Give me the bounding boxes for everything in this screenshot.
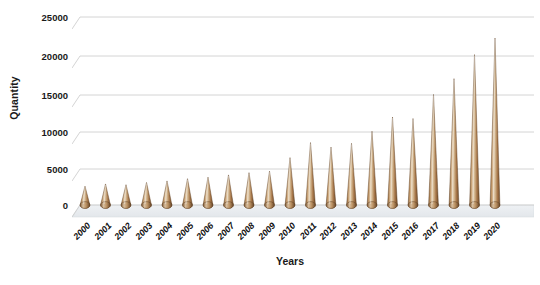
cone-base-ellipse	[306, 202, 316, 209]
y-axis-tick-labels: 25000 20000 15000 10000 5000 0	[22, 0, 68, 285]
cone-bar	[470, 55, 480, 209]
cone-bar	[224, 175, 234, 208]
y-tick-label: 10000	[22, 127, 68, 138]
chart-container: Quantity 25000 20000 15000 10000 5000 0	[0, 0, 540, 285]
cone-bar	[183, 179, 193, 209]
cone-base-ellipse	[265, 202, 275, 209]
x-tick-label: 2002	[104, 220, 134, 250]
gridlines	[72, 17, 534, 217]
x-axis-title: Years	[0, 255, 540, 267]
y-tick-label: 0	[22, 200, 68, 211]
cone-bar	[162, 181, 172, 208]
cone-bar	[244, 173, 254, 209]
x-tick-label: 2008	[227, 220, 257, 250]
x-tick-label: 2012	[309, 220, 339, 250]
cone-series	[80, 38, 500, 208]
cone-bar	[429, 94, 439, 208]
cone-base-ellipse	[224, 202, 234, 209]
cone-base-ellipse	[429, 202, 439, 209]
cone-bar	[285, 158, 295, 209]
cone-base-ellipse	[101, 202, 111, 209]
cone-base-ellipse	[80, 202, 90, 209]
y-tick-label: 5000	[22, 164, 68, 175]
cone-base-ellipse	[408, 202, 418, 209]
cone-base-ellipse	[367, 202, 377, 209]
cone-base-ellipse	[203, 202, 213, 209]
x-tick-label: 2017	[411, 220, 441, 250]
cone-bar	[142, 182, 152, 208]
plot-floor	[72, 205, 534, 217]
cone-base-ellipse	[285, 202, 295, 209]
plot-area	[72, 8, 534, 218]
x-tick-label: 2011	[288, 220, 318, 250]
x-tick-label: 2016	[391, 220, 421, 250]
x-tick-label: 2018	[432, 220, 462, 250]
x-tick-label: 2009	[247, 220, 277, 250]
cone-bar	[367, 131, 377, 208]
cone-bar	[203, 177, 213, 208]
x-tick-label: 2019	[452, 220, 482, 250]
cone-bar	[306, 143, 316, 209]
y-axis-title: Quantity	[8, 58, 20, 138]
cone-base-ellipse	[388, 202, 398, 209]
x-tick-label: 2004	[145, 220, 175, 250]
cone-bar	[388, 117, 398, 208]
y-tick-label: 25000	[22, 12, 68, 23]
x-tick-label: 2014	[350, 220, 380, 250]
cone-bar	[80, 186, 90, 208]
cone-bar	[121, 185, 131, 209]
cone-base-ellipse	[470, 202, 480, 209]
x-tick-label: 2003	[124, 220, 154, 250]
cone-base-ellipse	[183, 202, 193, 209]
cone-bar	[101, 184, 111, 208]
cone-base-ellipse	[490, 202, 500, 209]
cone-base-ellipse	[121, 202, 131, 209]
x-tick-label: 2010	[268, 220, 298, 250]
y-tick-label: 15000	[22, 90, 68, 101]
x-tick-label: 2015	[370, 220, 400, 250]
x-tick-label: 2005	[165, 220, 195, 250]
x-tick-label: 2020	[473, 220, 503, 250]
cone-bar	[449, 79, 459, 209]
cone-base-ellipse	[347, 202, 357, 209]
cone-bar	[326, 147, 336, 208]
cone-bar	[490, 38, 500, 208]
x-tick-label: 2001	[83, 220, 113, 250]
cone-base-ellipse	[449, 202, 459, 209]
x-tick-label: 2006	[186, 220, 216, 250]
cone-bar	[265, 171, 275, 208]
plot-svg	[72, 8, 534, 220]
cone-base-ellipse	[162, 202, 172, 209]
cone-base-ellipse	[244, 202, 254, 209]
cone-base-ellipse	[142, 202, 152, 209]
y-tick-label: 20000	[22, 51, 68, 62]
x-tick-label: 2013	[329, 220, 359, 250]
cone-bar	[347, 143, 357, 208]
cone-base-ellipse	[326, 202, 336, 209]
x-tick-label: 2007	[206, 220, 236, 250]
